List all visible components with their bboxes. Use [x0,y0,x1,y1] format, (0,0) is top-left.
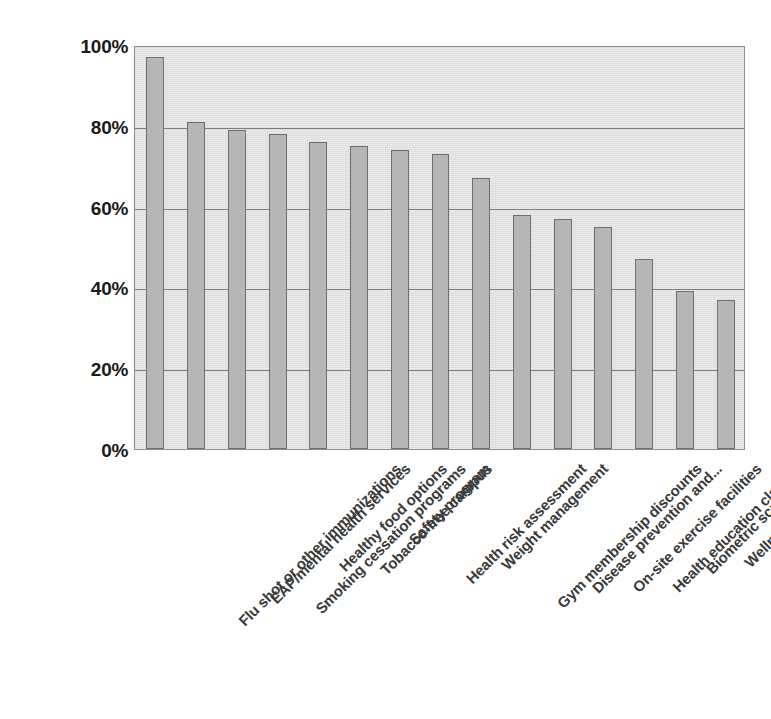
bar [391,150,409,449]
x-tick-mark [726,449,727,450]
bar [269,134,287,449]
bar [472,178,490,449]
x-tick-label: Weight management [497,460,610,573]
bar [187,122,205,449]
x-tick-mark [318,449,319,450]
y-tick-label: 0% [58,441,128,460]
x-tick-mark [237,449,238,450]
bar [554,219,572,449]
bar [594,227,612,449]
bar [146,57,164,449]
y-tick-label: 60% [58,199,128,218]
y-axis-labels: 0%20%40%60%80%100% [58,36,128,460]
bar [309,142,327,449]
x-tick-mark [685,449,686,450]
bar [676,291,694,449]
x-tick-mark [278,449,279,450]
x-tick-mark [603,449,604,450]
bar-chart: 0%20%40%60%80%100% Flu shot or other imm… [0,0,771,719]
bar [513,215,531,449]
x-tick-mark [441,449,442,450]
x-tick-mark [359,449,360,450]
bars-layer [135,47,744,449]
x-tick-mark [481,449,482,450]
x-tick-mark [400,449,401,450]
y-tick-label: 40% [58,279,128,298]
y-tick-label: 80% [58,118,128,137]
plot-area [134,46,745,450]
y-tick-label: 100% [58,37,128,56]
x-axis-labels: Flu shot or other immunizationsEAP/menta… [134,452,745,682]
x-tick-mark [522,449,523,450]
bar [228,130,246,449]
x-tick-mark [644,449,645,450]
x-tick-mark [196,449,197,450]
bar [350,146,368,449]
bar [432,154,450,449]
bottom-caption [10,706,750,719]
x-tick-mark [563,449,564,450]
bar [635,259,653,449]
y-tick-label: 20% [58,360,128,379]
x-tick-mark [155,449,156,450]
bar [717,300,735,449]
